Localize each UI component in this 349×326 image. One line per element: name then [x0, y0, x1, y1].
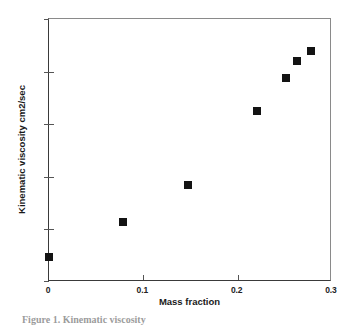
y-tick-1_8 — [44, 19, 49, 20]
data-point — [293, 57, 301, 65]
y-tick-inner-1_6 — [49, 72, 54, 73]
x-axis-title: Mass fraction — [48, 296, 331, 307]
data-point — [282, 74, 290, 82]
y-tick-inner-1_0 — [49, 229, 54, 230]
y-tick-inner-1_4 — [49, 124, 54, 125]
x-tick-label-0: 0 — [28, 285, 68, 295]
data-point — [119, 218, 127, 226]
figure-container: 1.8 1.6 1.4 1.2 1 0.8 0 0.1 0.2 0.3 Kine… — [0, 0, 349, 326]
y-axis-title: Kinematic viscosity cm2/sec — [14, 18, 30, 281]
x-tick-label-0_2: 0.2 — [217, 285, 257, 295]
x-tick-label-0_1: 0.1 — [122, 285, 162, 295]
data-point — [307, 47, 315, 55]
x-tick-inner-0_2 — [238, 275, 239, 280]
x-tick-inner-0_1 — [143, 275, 144, 280]
plot-area — [48, 18, 331, 281]
data-point — [184, 181, 192, 189]
x-tick-label-0_3: 0.3 — [311, 285, 349, 295]
figure-caption: Figure 1. Kinematic viscosity — [22, 314, 342, 325]
data-point — [45, 253, 53, 261]
data-point — [253, 107, 261, 115]
y-tick-inner-1_2 — [49, 177, 54, 178]
y-tick-0_8 — [44, 281, 49, 282]
